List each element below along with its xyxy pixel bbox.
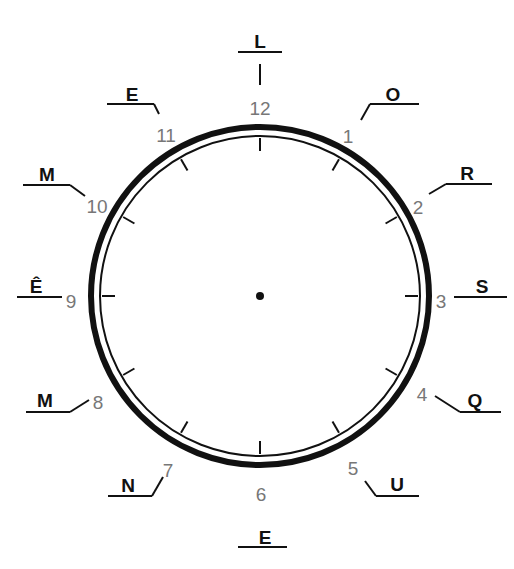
hour-slot-2: 2R [413, 163, 492, 218]
hour-number: 5 [348, 458, 359, 479]
hour-number: 4 [417, 384, 428, 405]
leader-line [361, 104, 370, 120]
hour-letter: Q [468, 390, 483, 411]
hour-slot-8: 8M [26, 390, 103, 413]
tick-mark-2 [386, 217, 397, 224]
hour-number: 10 [86, 196, 107, 217]
hour-letter: M [37, 390, 53, 411]
tick-mark-8 [123, 369, 134, 376]
hour-number: 3 [436, 291, 447, 312]
leader-line [365, 481, 376, 496]
hour-number: 11 [156, 125, 176, 146]
leader-line [70, 185, 85, 196]
leader-line [152, 477, 163, 496]
tick-mark-1 [333, 159, 340, 170]
hour-letter: U [390, 474, 404, 495]
hour-letter: E [126, 84, 139, 105]
tick-mark-7 [181, 422, 188, 433]
clock-diagram: 12L1O2R3S4Q5U6E7N8M9Ê10M11E [0, 0, 514, 569]
hour-slot-3: 3S [436, 276, 507, 312]
hour-letter: L [254, 31, 266, 52]
hour-letter: E [259, 527, 272, 548]
hour-number: 2 [413, 197, 424, 218]
hour-number: 8 [93, 392, 104, 413]
hour-letter: M [39, 164, 55, 185]
tick-mark-11 [181, 159, 188, 170]
hour-slot-4: 4Q [417, 384, 501, 412]
hour-slot-10: 10M [23, 164, 108, 217]
clock-face [91, 127, 429, 465]
hour-slot-9: 9Ê [17, 276, 76, 312]
hour-slot-12: 12L [238, 31, 282, 119]
hour-letter: R [460, 163, 474, 184]
hour-slot-5: 5U [348, 458, 419, 496]
leader-line [70, 400, 89, 412]
hour-number: 9 [66, 291, 77, 312]
leader-line [435, 396, 460, 412]
hour-number: 7 [163, 460, 174, 481]
hour-slot-11: 11E [107, 84, 176, 146]
tick-mark-10 [123, 217, 134, 224]
leader-line [154, 104, 159, 114]
leader-line [429, 184, 446, 194]
hour-slot-1: 1O [343, 84, 419, 147]
hour-number: 1 [343, 126, 354, 147]
hour-number: 12 [249, 98, 270, 119]
hour-number: 6 [256, 484, 267, 505]
tick-mark-5 [333, 422, 340, 433]
hour-letter: Ê [30, 276, 43, 297]
hour-slot-7: 7N [108, 460, 173, 496]
hour-slot-6: 6E [238, 484, 287, 548]
tick-mark-4 [386, 369, 397, 376]
center-dot [256, 292, 264, 300]
hour-letter: N [121, 475, 135, 496]
hour-letter: S [476, 276, 489, 297]
hour-letter: O [386, 84, 401, 105]
